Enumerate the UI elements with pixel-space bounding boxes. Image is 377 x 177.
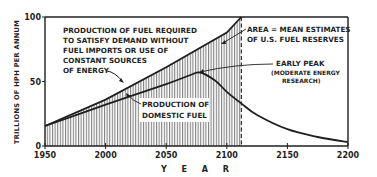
svg-text:RESEARCH): RESEARCH) [282,77,321,84]
svg-text:OF ENERGY: OF ENERGY [63,66,110,75]
x-tick-label: 2050 [155,151,178,160]
x-tick-label: 2000 [94,151,117,160]
energy-chart: 050100 195020002050210021502200 TRILLION… [0,0,377,177]
x-tick-label: 1950 [34,151,57,160]
svg-text:PRODUCTION OF: PRODUCTION OF [142,100,209,109]
x-tick-label: 2100 [216,151,239,160]
x-axis-label: Y E A R [160,165,235,174]
x-tick-label: 2200 [337,151,360,160]
svg-text:CONSTANT SOURCES: CONSTANT SOURCES [63,56,147,65]
svg-text:EARLY PEAK: EARLY PEAK [276,59,325,68]
svg-text:FUEL IMPORTS OR USE OF: FUEL IMPORTS OR USE OF [63,46,168,55]
svg-text:(MODERATE ENERGY: (MODERATE ENERGY [271,69,341,76]
svg-text:PRODUCTION OF FUEL REQUIRED: PRODUCTION OF FUEL REQUIRED [63,26,197,35]
svg-text:TO SATISFY DEMAND WITHOUT: TO SATISFY DEMAND WITHOUT [63,36,189,45]
svg-text:OF U.S. FUEL RESERVES: OF U.S. FUEL RESERVES [247,35,344,44]
y-tick-label: 0 [35,142,41,151]
y-axis-label: TRILLIONS OF HPH PER ANNUM [13,20,21,144]
svg-text:AREA = MEAN ESTIMATES: AREA = MEAN ESTIMATES [247,25,351,34]
y-ticks: 050100 [24,13,45,151]
svg-text:DOMESTIC FUEL: DOMESTIC FUEL [142,111,207,120]
y-tick-label: 50 [30,78,42,87]
y-tick-label: 100 [24,13,41,22]
x-tick-label: 2150 [276,151,299,160]
